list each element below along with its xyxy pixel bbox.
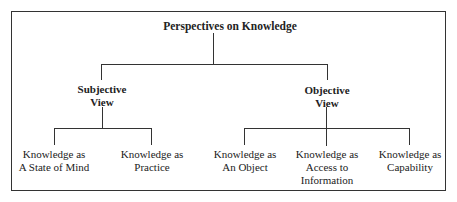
connector (102, 107, 103, 128)
node-label: Subjective (62, 83, 142, 96)
leaf-capability: Knowledge as Capability (365, 148, 455, 174)
leaf-label: A State of Mind (9, 161, 99, 174)
connector (409, 128, 410, 145)
node-label: Objective (287, 84, 367, 97)
leaf-label: Practice (107, 161, 197, 174)
connector (327, 64, 328, 80)
connector (101, 64, 328, 65)
root-title: Perspectives on Knowledge (163, 20, 297, 32)
leaf-access-to-information: Knowledge as Access to Information (282, 148, 372, 187)
node-label: View (287, 97, 367, 110)
connector (244, 128, 245, 145)
root-node: Perspectives on Knowledge (140, 20, 320, 33)
connector (54, 128, 152, 129)
leaf-label: Knowledge as (282, 148, 372, 161)
leaf-label: An Object (200, 161, 290, 174)
leaf-label: Access to (282, 161, 372, 174)
connector (244, 128, 410, 129)
connector (326, 107, 327, 146)
leaf-object: Knowledge as An Object (200, 148, 290, 174)
connector (54, 128, 55, 145)
connector (101, 64, 102, 80)
connector (213, 33, 214, 64)
connector (151, 128, 152, 145)
leaf-label: Knowledge as (200, 148, 290, 161)
leaf-label: Knowledge as (365, 148, 455, 161)
node-objective-view: Objective View (287, 84, 367, 110)
node-subjective-view: Subjective View (62, 83, 142, 109)
leaf-label: Knowledge as (107, 148, 197, 161)
leaf-practice: Knowledge as Practice (107, 148, 197, 174)
leaf-label: Information (282, 174, 372, 187)
leaf-label: Knowledge as (9, 148, 99, 161)
leaf-state-of-mind: Knowledge as A State of Mind (9, 148, 99, 174)
leaf-label: Capability (365, 161, 455, 174)
